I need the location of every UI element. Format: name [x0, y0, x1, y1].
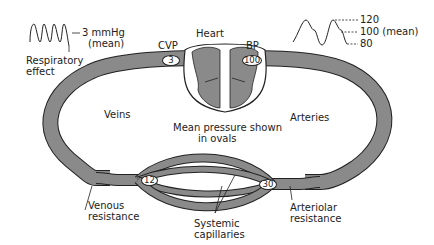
venous-resistance-oval: 12	[141, 175, 158, 186]
venous-resistance-label-line1: Venous	[88, 200, 124, 211]
respiratory-label-line2: effect	[26, 66, 55, 77]
center-note-line1: Mean pressure shown	[173, 122, 282, 133]
capillaries-label-line1: Systemic	[194, 218, 240, 229]
mean-arterial-pressure: 100 (mean)	[360, 26, 418, 37]
respiratory-label-line1: Respiratory	[26, 55, 83, 66]
venous-pressure-value: 3 mmHg	[82, 27, 125, 38]
arteriolar-resistance-label-line1: Arteriolar	[290, 202, 337, 213]
venous-waveform	[30, 24, 80, 52]
heart-label: Heart	[196, 28, 224, 39]
systolic-pressure: 120	[360, 14, 379, 25]
capillary-bed	[138, 158, 272, 207]
arterial-waveform	[293, 20, 358, 45]
arteriolar-resistance-label-line2: resistance	[290, 213, 341, 224]
cvp-value-oval: 3	[162, 55, 180, 66]
diastolic-pressure: 80	[360, 38, 373, 49]
arteriolar-resistance-oval: 30	[259, 179, 277, 190]
cvp-label: CVP	[158, 40, 178, 51]
center-note-line2: in ovals	[198, 133, 236, 144]
bp-label: BP	[246, 40, 259, 51]
bp-value-oval: 100	[242, 55, 262, 66]
arteries-label: Arteries	[290, 112, 329, 123]
venous-pressure-mean: (mean)	[88, 38, 124, 49]
capillaries-label-line2: capillaries	[194, 229, 245, 240]
venous-resistance-label-line2: resistance	[88, 211, 139, 222]
veins-label: Veins	[104, 109, 131, 120]
